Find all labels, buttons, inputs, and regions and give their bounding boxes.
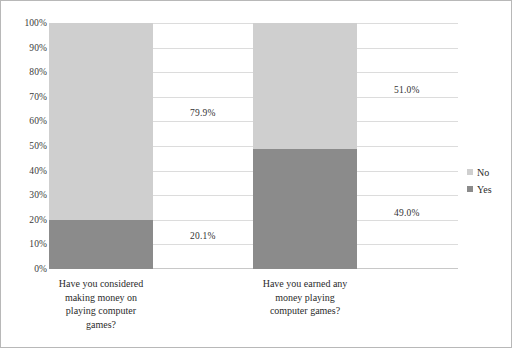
y-tick-70: 70%	[3, 92, 47, 102]
y-tick-0: 0%	[3, 264, 47, 274]
category-label-line: Have you earned any	[225, 277, 385, 291]
category-label-line: Have you considered	[21, 277, 181, 291]
category-label-line: making money on	[21, 291, 181, 305]
category-label-line: playing computer	[21, 304, 181, 318]
bar-segment-no-1[interactable]	[49, 23, 153, 220]
category-label-line: money playing	[225, 291, 385, 305]
y-tick-50: 50%	[3, 141, 47, 151]
data-label-no-2: 51.0%	[394, 85, 420, 96]
legend-item-no[interactable]: No	[467, 165, 511, 179]
y-tick-30: 30%	[3, 190, 47, 200]
category-label-line: computer games?	[225, 304, 385, 318]
y-tick-10: 10%	[3, 239, 47, 249]
y-tick-100: 100%	[3, 18, 47, 28]
chart-figure: 100% 90% 80% 70% 60% 50% 40% 30% 20% 10%…	[0, 0, 512, 348]
y-tick-90: 90%	[3, 43, 47, 53]
plot-area: 79.9% 20.1% 51.0% 49.0%	[49, 23, 458, 269]
legend-label-yes: Yes	[477, 184, 492, 195]
bar-segment-yes-2[interactable]	[253, 149, 357, 270]
category-label-considered: Have you considered making money on play…	[21, 277, 181, 331]
bar-segment-yes-1[interactable]	[49, 220, 153, 269]
legend-label-no: No	[477, 167, 489, 178]
bar-stack-considered[interactable]	[49, 23, 153, 269]
legend-swatch-yes-icon	[467, 186, 473, 192]
legend-item-yes[interactable]: Yes	[467, 182, 511, 196]
category-label-earned: Have you earned any money playing comput…	[225, 277, 385, 318]
y-tick-40: 40%	[3, 166, 47, 176]
category-label-line: games?	[21, 318, 181, 332]
y-axis: 100% 90% 80% 70% 60% 50% 40% 30% 20% 10%…	[1, 23, 47, 269]
bar-segment-no-2[interactable]	[253, 23, 357, 149]
data-label-yes-2: 49.0%	[394, 208, 420, 219]
y-tick-60: 60%	[3, 116, 47, 126]
legend: No Yes	[467, 165, 511, 199]
y-tick-80: 80%	[3, 67, 47, 77]
data-label-no-1: 79.9%	[190, 108, 216, 119]
bar-stack-earned[interactable]	[253, 23, 357, 269]
data-label-yes-1: 20.1%	[190, 231, 216, 242]
legend-swatch-no-icon	[467, 169, 473, 175]
y-tick-20: 20%	[3, 215, 47, 225]
